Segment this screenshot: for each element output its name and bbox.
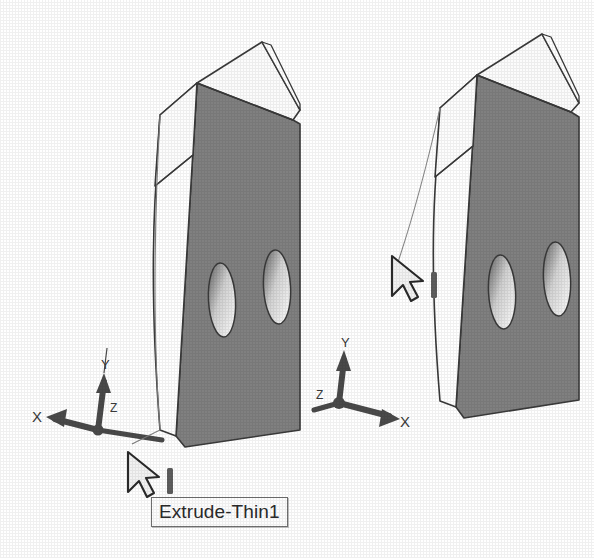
coordinate-triad-right[interactable]: Y X Z (314, 335, 410, 430)
triad-axis-x-label: X (400, 413, 410, 430)
triad-axis-y-label: Y (341, 335, 350, 350)
triad-axis-z-label: Z (316, 388, 323, 402)
triad-axis-x-arrowhead (46, 409, 67, 427)
triad-axis-x-label: X (32, 408, 42, 425)
mouse-pointer-left[interactable] (128, 452, 159, 497)
mouse-pointer-right[interactable] (392, 256, 423, 301)
triad-axis-z (98, 430, 162, 440)
triad-axis-z-label: Z (110, 401, 117, 415)
right-view: Y X Z Extrude-Thin1 (294, 0, 594, 558)
left-view: Y X Z Extrude-Thin1 (0, 0, 300, 558)
triad-axis-y-label: Y (101, 357, 110, 372)
triad-axis-y-arrowhead (336, 350, 351, 371)
tooltip-extrude-thin1-left: Extrude-Thin1 (151, 497, 288, 527)
triad-axis-x-arrowhead (379, 409, 400, 427)
triad-origin (333, 397, 345, 409)
coordinate-triad-left[interactable]: Y X Z (32, 348, 162, 440)
text-beam-marker (431, 272, 437, 298)
cad-comparison-canvas: Y X Z Extrude-Thin1 (0, 0, 594, 558)
left-model-svg: Y X Z (0, 0, 300, 558)
triad-origin (93, 425, 104, 436)
text-beam-marker (167, 468, 173, 494)
right-model-svg: Y X Z (294, 0, 594, 558)
triad-axis-y-arrowhead (96, 373, 111, 393)
